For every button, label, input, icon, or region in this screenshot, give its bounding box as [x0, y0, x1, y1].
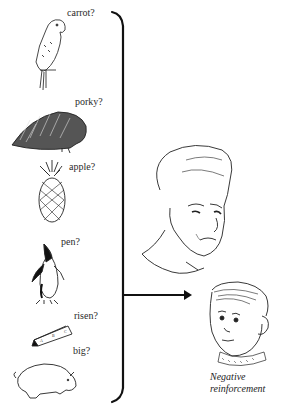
diagram-drawing: A B C: [0, 0, 282, 411]
caption-line-1: Negative: [210, 371, 265, 383]
word-label-carrot: carrot?: [67, 7, 95, 18]
prism-block-icon: A B C: [32, 326, 72, 346]
word-label-big: big?: [73, 345, 90, 356]
porcupine-icon: [12, 112, 86, 153]
word-label-porky: porky?: [75, 96, 103, 107]
parrot-icon: [36, 20, 65, 90]
penguin-icon: [32, 244, 64, 304]
pineapple-icon: [39, 160, 65, 222]
caption-line-2: reinforcement: [210, 383, 265, 395]
svg-text:C: C: [64, 329, 67, 334]
negative-reinforcement-diagram: A B C: [0, 0, 282, 411]
adult-woman-icon: [142, 145, 232, 273]
word-label-pen: pen?: [61, 236, 80, 247]
svg-text:A: A: [40, 338, 43, 343]
caption-negative-reinforcement: Negative reinforcement: [210, 371, 265, 395]
bracket-icon: [112, 12, 184, 402]
svg-text:B: B: [52, 333, 55, 338]
child-boy-icon: [210, 282, 268, 366]
word-label-risen: risen?: [74, 310, 98, 321]
word-label-apple: apple?: [69, 161, 95, 172]
pig-icon: [14, 364, 76, 398]
arrow-head-icon: [184, 290, 192, 300]
